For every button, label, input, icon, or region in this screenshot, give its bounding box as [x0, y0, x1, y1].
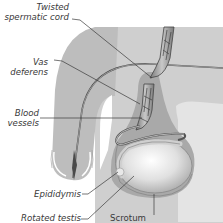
label-twisted-spermatic-cord: Twisted spermatic cord — [4, 2, 69, 22]
label-blood-vessels: Blood vessels — [8, 108, 39, 128]
label-blood-line1: Blood — [8, 108, 39, 118]
label-vas-line1: Vas — [10, 57, 48, 67]
label-blood-line2: vessels — [8, 118, 39, 128]
label-scrotum: Scrotum — [110, 213, 146, 223]
label-vas-deferens: Vas deferens — [10, 57, 48, 77]
label-epididymis: Epididymis — [34, 189, 81, 199]
label-vas-line2: deferens — [10, 67, 48, 77]
label-twisted-line2: spermatic cord — [4, 12, 69, 22]
label-rotated-testis: Rotated testis — [21, 213, 81, 223]
label-twisted-line1: Twisted — [4, 2, 69, 12]
testicular-torsion-diagram: Twisted spermatic cord Vas deferens Bloo… — [0, 0, 223, 223]
